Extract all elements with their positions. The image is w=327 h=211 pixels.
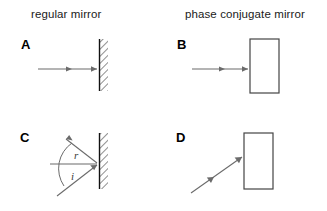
panel-d-group [191,133,273,193]
angle-label-reflection: r [74,149,79,161]
mirror-hatching-a [99,39,108,91]
figure-artwork: r i [0,0,327,211]
ray-arrowhead-mid-d [207,177,214,183]
ray-incident-c [57,165,97,196]
ray-arrowhead-tip-d [235,157,242,163]
panel-b-group [192,39,279,93]
ray-arrowhead-tip-b [242,66,248,71]
angle-label-incidence: i [71,170,74,182]
phase-conjugate-mirror-b [250,39,279,93]
ray-reflected-c [66,139,97,163]
phase-conjugate-mirror-d [244,133,273,189]
ray-arrowhead-tip-a [91,66,97,71]
ray-arrowhead-mid-a [66,66,72,71]
mirror-hatching-c [99,133,108,189]
physics-figure: regular mirror phase conjugate mirror A … [0,0,327,211]
ray-incident-d [191,157,242,193]
panel-a-group [38,39,108,91]
ray-arrowhead-mid-b [219,66,225,71]
panel-c-group: r i [50,133,108,196]
